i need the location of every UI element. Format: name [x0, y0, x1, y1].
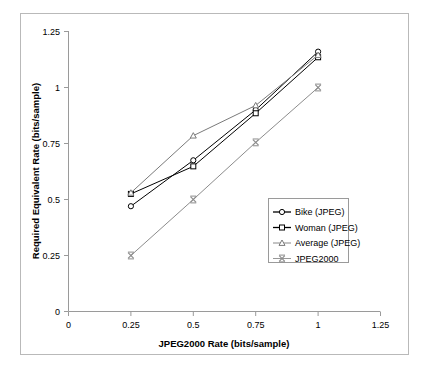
x-tick-label-1: 0.25	[122, 320, 140, 330]
legend-marker-0	[279, 209, 284, 214]
data-point-2-1-triangle-icon	[190, 133, 196, 138]
series-2	[128, 52, 321, 195]
y-axis-ticks	[64, 32, 69, 312]
y-axis-title: Required Equivalent Rate (bits/sample)	[30, 83, 41, 259]
x-tick-labels: 0 0.25 0.5 0.75 1 1.25	[66, 320, 389, 330]
data-point-0-1-circle-icon	[191, 158, 196, 163]
x-tick-label-0: 0	[66, 320, 71, 330]
legend-marker-1-square-icon	[280, 225, 285, 230]
series-0	[128, 49, 320, 209]
x-tick-label-5: 1.25	[372, 320, 390, 330]
legend-label-1: Woman (JPEG)	[295, 223, 358, 233]
data-point-3-0	[128, 252, 134, 259]
chart-legend: Bike (JPEG)Woman (JPEG)Average (JPEG)JPE…	[269, 199, 361, 264]
y-tick-labels: 1.25 1 0.75 0.5 0.25 0	[42, 27, 60, 317]
series-line-2	[131, 55, 318, 193]
data-point-0-1	[191, 158, 196, 163]
legend-label-2: Average (JPEG)	[295, 238, 360, 248]
data-point-0-0	[128, 204, 133, 209]
y-tick-label-3: 0.75	[42, 139, 60, 149]
legend-label-3: JPEG2000	[295, 254, 339, 264]
legend-item-3[interactable]: JPEG2000	[273, 254, 339, 264]
chart-plot-area: 1.25 1 0.75 0.5 0.25 0 0 0.25 0.5 0.75 1…	[0, 0, 426, 372]
data-point-2-1	[190, 133, 196, 138]
y-tick-label-1: 0.25	[42, 251, 60, 261]
y-tick-label-2: 0.5	[47, 195, 60, 205]
data-point-1-1-square-icon	[191, 164, 196, 169]
data-point-0-0-circle-icon	[128, 204, 133, 209]
y-tick-label-4: 1	[55, 83, 60, 93]
data-point-3-2	[253, 139, 259, 146]
x-tick-label-3: 0.75	[247, 320, 265, 330]
y-tick-label-0: 0	[55, 307, 60, 317]
data-point-1-2	[253, 111, 258, 116]
legend-label-0: Bike (JPEG)	[295, 207, 345, 217]
data-point-1-1	[191, 164, 196, 169]
y-tick-label-5: 1.25	[42, 27, 60, 37]
data-point-3-3	[315, 84, 321, 91]
series-line-0	[131, 52, 318, 207]
legend-marker-1	[280, 225, 285, 230]
data-point-1-2-square-icon	[253, 111, 258, 116]
x-axis-title: JPEG2000 Rate (bits/sample)	[159, 338, 290, 349]
x-tick-label-2: 0.5	[187, 320, 200, 330]
data-point-3-1	[190, 196, 196, 203]
legend-marker-0-circle-icon	[279, 209, 284, 214]
chart-figure: 1.25 1 0.75 0.5 0.25 0 0 0.25 0.5 0.75 1…	[0, 0, 426, 372]
x-tick-label-4: 1	[316, 320, 321, 330]
x-axis-ticks	[69, 312, 381, 317]
